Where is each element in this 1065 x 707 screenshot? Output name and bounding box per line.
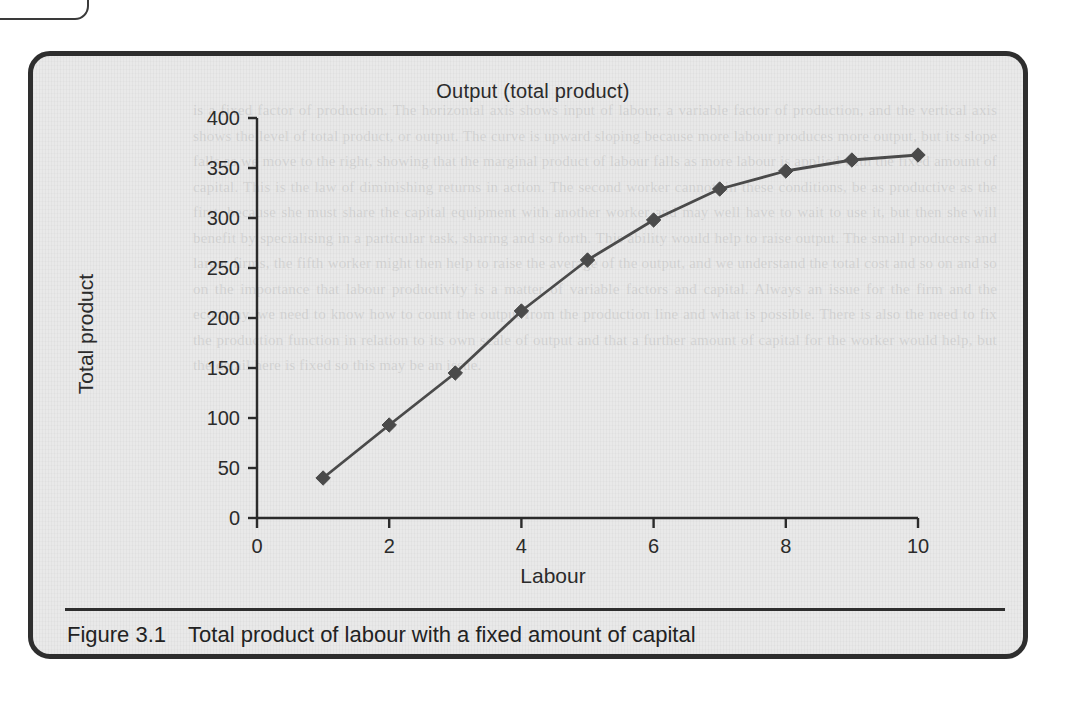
- svg-text:400: 400: [207, 107, 240, 129]
- svg-text:250: 250: [207, 257, 240, 279]
- y-axis-label: Total product: [74, 234, 98, 434]
- svg-text:0: 0: [229, 507, 240, 529]
- svg-text:0: 0: [251, 535, 262, 557]
- svg-text:10: 10: [907, 535, 929, 557]
- figure-caption: Figure 3.1Total product of labour with a…: [67, 622, 1017, 648]
- svg-text:4: 4: [516, 535, 527, 557]
- figure-number: Figure 3.1: [67, 622, 166, 647]
- svg-text:300: 300: [207, 207, 240, 229]
- svg-text:8: 8: [780, 535, 791, 557]
- svg-text:350: 350: [207, 157, 240, 179]
- svg-text:100: 100: [207, 407, 240, 429]
- chart-plot: 0501001502002503003504000246810: [33, 56, 1028, 616]
- x-axis-label: Labour: [203, 564, 903, 588]
- caption-divider: [65, 608, 1005, 611]
- svg-text:6: 6: [648, 535, 659, 557]
- svg-text:150: 150: [207, 357, 240, 379]
- clipped-box-fragment: [0, 0, 89, 20]
- svg-text:50: 50: [218, 457, 240, 479]
- figure-box: is a fixed factor of production. The hor…: [28, 51, 1028, 659]
- svg-text:200: 200: [207, 307, 240, 329]
- figure-caption-text: Total product of labour with a fixed amo…: [188, 622, 696, 647]
- svg-text:2: 2: [384, 535, 395, 557]
- chart-area: Output (total product) 05010015020025030…: [33, 56, 1028, 616]
